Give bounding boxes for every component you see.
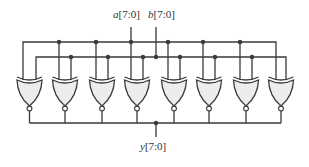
gate-3 [162,77,187,123]
gate-2 [197,77,222,123]
b-bus [36,57,286,80]
gate-0 [269,77,294,123]
b-label: b[7:0] [148,8,175,20]
gate-4 [125,77,150,123]
a-bus [23,42,276,80]
gate-7 [17,77,42,123]
y-label: y[7:0] [140,140,166,152]
gate-5 [90,77,115,123]
a-label: a[7:0] [113,8,140,20]
gate-1 [234,77,259,123]
gate-6 [53,77,78,123]
